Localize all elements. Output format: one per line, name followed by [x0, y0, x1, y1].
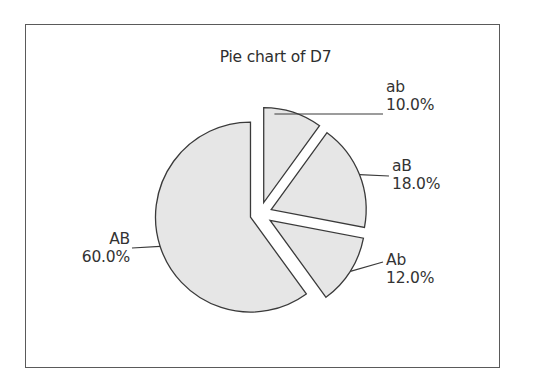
label-ab-category: ab	[386, 78, 434, 96]
label-AB: AB 60.0%	[70, 230, 130, 266]
label-Ab-category: Ab	[386, 251, 434, 269]
leader-line-aB	[359, 175, 389, 176]
leader-line-AB	[132, 246, 160, 248]
label-Ab: Ab 12.0%	[386, 251, 434, 287]
label-AB-category: AB	[70, 230, 130, 248]
pie-slices	[155, 108, 366, 313]
label-aB-value: 18.0%	[392, 175, 440, 193]
label-ab-value: 10.0%	[386, 96, 434, 114]
label-ab: ab 10.0%	[386, 78, 434, 114]
label-Ab-value: 12.0%	[386, 269, 434, 287]
pie-chart	[0, 0, 551, 390]
label-aB: aB 18.0%	[392, 157, 440, 193]
label-aB-category: aB	[392, 157, 440, 175]
label-AB-value: 60.0%	[70, 248, 130, 266]
